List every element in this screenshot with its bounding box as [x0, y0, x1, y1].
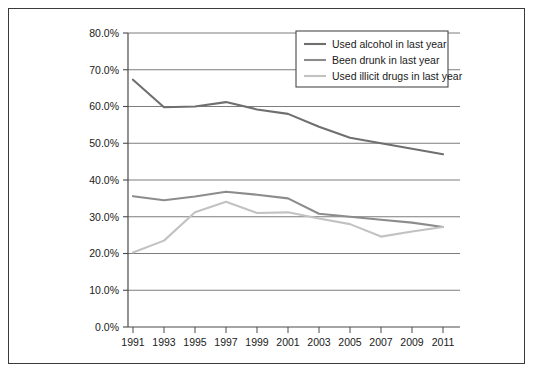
x-axis-tick-label: 2011 — [432, 336, 455, 348]
y-axis-tick-label: 0.0% — [95, 321, 119, 333]
x-axis-tick-label: 1993 — [152, 336, 176, 348]
y-axis-tick-label: 50.0% — [89, 137, 119, 149]
x-axis-tick-label: 2009 — [400, 336, 424, 348]
x-axis-tick-label: 1999 — [245, 336, 269, 348]
legend-label-0: Used alcohol in last year — [332, 38, 447, 50]
y-axis-tick-label: 20.0% — [89, 247, 119, 259]
x-axis-tick-label: 2003 — [307, 336, 331, 348]
y-axis-tick-label: 80.0% — [89, 27, 119, 39]
y-axis-tick-label: 70.0% — [89, 64, 119, 76]
chart-canvas: 0.0%10.0%20.0%30.0%40.0%50.0%60.0%70.0%8… — [0, 0, 533, 372]
y-axis-tick-label: 60.0% — [89, 100, 119, 112]
y-axis-tick-label: 30.0% — [89, 211, 119, 223]
x-axis-tick-label: 2001 — [276, 336, 300, 348]
line-chart: 0.0%10.0%20.0%30.0%40.0%50.0%60.0%70.0%8… — [0, 0, 533, 372]
chart-page: 0.0%10.0%20.0%30.0%40.0%50.0%60.0%70.0%8… — [0, 0, 533, 372]
series-line-1 — [133, 192, 443, 227]
y-axis-tick-label: 10.0% — [89, 284, 119, 296]
legend-label-1: Been drunk in last year — [332, 54, 440, 66]
x-axis-tick-label: 2005 — [338, 336, 362, 348]
x-axis-tick-label: 1991 — [121, 336, 145, 348]
series-line-2 — [133, 202, 443, 253]
y-axis-tick-label: 40.0% — [89, 174, 119, 186]
legend-label-2: Used illicit drugs in last year — [332, 70, 463, 82]
x-axis-tick-label: 1997 — [214, 336, 238, 348]
x-axis-tick-label: 2007 — [369, 336, 393, 348]
x-axis-tick-label: 1995 — [183, 336, 207, 348]
